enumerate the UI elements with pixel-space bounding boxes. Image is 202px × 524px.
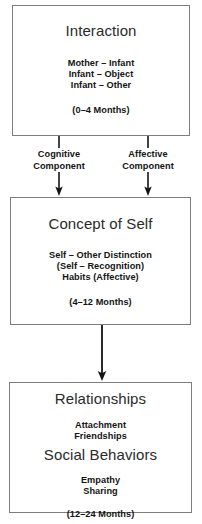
node-concept-of-self[interactable]: Concept of Self Self – Other Distinction… <box>10 197 191 325</box>
list-item: Sharing <box>10 486 191 497</box>
node-concept-of-self-heading: Concept of Self <box>11 216 190 233</box>
edge-label-cognitive: Cognitive Component <box>33 149 84 172</box>
list-item: Attachment <box>10 420 191 431</box>
edge-label-line: Component <box>33 161 84 173</box>
edge-label-affective: Affective Component <box>122 149 173 172</box>
node-social-behaviors-items: Empathy Sharing <box>10 475 191 498</box>
node-interaction-age-range: (0–4 Months) <box>13 105 189 115</box>
node-relationships-items: Attachment Friendships <box>10 420 191 443</box>
list-item: Habits (Affective) <box>11 272 190 283</box>
edge-label-line: Affective <box>122 149 173 161</box>
node-interaction[interactable]: Interaction Mother – Infant Infant – Obj… <box>12 5 190 136</box>
node-relationships-heading: Relationships <box>10 391 191 408</box>
list-item: Mother – Infant <box>13 58 189 69</box>
node-interaction-heading: Interaction <box>13 23 189 40</box>
list-item: Empathy <box>10 475 191 486</box>
arrow-self-to-relationships-icon <box>98 325 106 381</box>
list-item: Infant – Other <box>13 80 189 91</box>
node-social-behaviors-heading: Social Behaviors <box>10 447 191 464</box>
list-item: Friendships <box>10 431 191 442</box>
list-item: Self – Other Distinction <box>11 250 190 261</box>
node-relationships-social-behaviors[interactable]: Relationships Attachment Friendships Soc… <box>9 382 192 513</box>
list-item: Infant – Object <box>13 69 189 80</box>
edge-label-line: Cognitive <box>33 149 84 161</box>
list-item: (Self – Recognition) <box>11 261 190 272</box>
node-social-behaviors-age-range: (12–24 Months) <box>10 509 191 519</box>
node-concept-of-self-age-range: (4–12 Months) <box>11 297 190 307</box>
node-interaction-items: Mother – Infant Infant – Object Infant –… <box>13 58 189 92</box>
flow-diagram: Interaction Mother – Infant Infant – Obj… <box>0 0 202 524</box>
node-concept-of-self-items: Self – Other Distinction (Self – Recogni… <box>11 250 190 284</box>
edge-label-line: Component <box>122 161 173 173</box>
